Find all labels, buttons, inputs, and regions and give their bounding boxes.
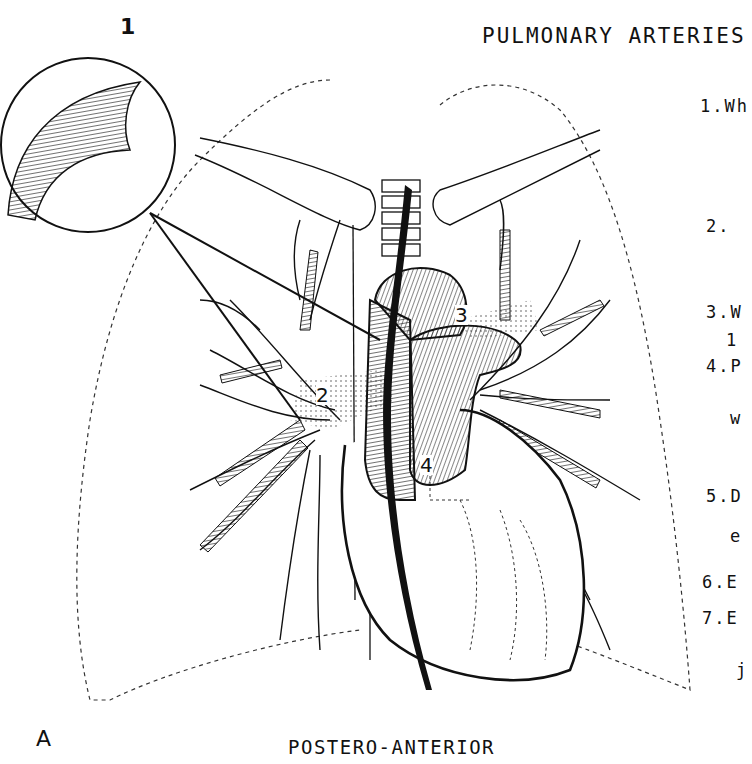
list-item: 1.Wh	[700, 96, 749, 116]
left-pulmonary-branches	[190, 220, 340, 650]
list-item: e	[730, 526, 742, 546]
list-item: 2.	[706, 216, 730, 236]
callout-number-2: 2	[316, 385, 329, 405]
list-item: 1	[726, 330, 738, 350]
list-item: 3.W	[706, 302, 743, 322]
figure-title: PULMONARY ARTERIES	[482, 24, 746, 48]
list-item: j	[736, 660, 748, 680]
inset-label: 1	[120, 14, 135, 39]
list-item: 7.E	[702, 608, 739, 628]
list-item: 5.D	[706, 486, 743, 506]
callout-number-4: 4	[420, 455, 433, 475]
list-item: w	[730, 408, 742, 428]
corner-label: A	[36, 726, 51, 751]
list-item: 4.P	[706, 356, 743, 376]
figure-caption: POSTERO-ANTERIOR	[288, 736, 495, 758]
anatomical-illustration	[0, 0, 752, 764]
list-item: 6.E	[702, 572, 739, 592]
callout-number-3: 3	[455, 305, 468, 325]
